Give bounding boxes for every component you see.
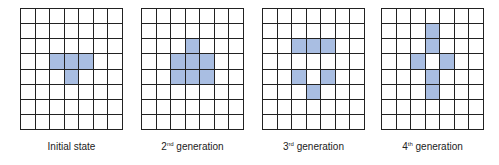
grid-cell [186,9,201,24]
grid-cell [263,70,278,85]
grid-cell-filled [307,39,322,54]
grid-cell [278,100,293,115]
grid-cell [307,9,322,24]
grid-cell [469,9,484,24]
grid-cell [469,85,484,100]
grid-cell [307,54,322,69]
grid-cell [229,54,244,69]
grid-2nd-generation [141,8,244,130]
grid-cell [411,85,426,100]
grid-cell [142,39,157,54]
grid-cell-filled [171,54,186,69]
grid-cell [440,115,455,130]
grid-cell [157,9,172,24]
grid-cell [215,9,230,24]
grid-cell [321,85,336,100]
grid-cell [278,39,293,54]
grid-cell [336,115,351,130]
grid-cell [382,54,397,69]
grid-cell [382,115,397,130]
grid-cell [171,115,186,130]
grid-cell [426,9,441,24]
grid-cell [263,54,278,69]
grid-cell [229,9,244,24]
grid-cell [382,24,397,39]
label-suffix: generation [174,141,224,152]
grid-cell [382,85,397,100]
grid-cell [200,9,215,24]
label-2nd-generation: 2nd generation [141,141,244,152]
grid-cell [215,70,230,85]
grid-cell-filled [440,54,455,69]
grid-cell [336,9,351,24]
grid-cell [278,9,293,24]
grid-3rd-generation [262,8,365,130]
grid-cell [215,100,230,115]
grid-cell [263,24,278,39]
grid-cell [263,39,278,54]
grid-cell [229,70,244,85]
grid-cell [455,100,470,115]
grid-cell [157,85,172,100]
grid-cell [397,24,412,39]
grid-cell [382,39,397,54]
grid-cell [171,39,186,54]
grid-cell [469,54,484,69]
grid-cell [455,39,470,54]
grid-cell-filled [200,70,215,85]
grid-cell [215,39,230,54]
grid-cell [278,70,293,85]
grid-cell-filled [292,70,307,85]
grid-cell [307,24,322,39]
grid-cell [307,100,322,115]
grid-cell [336,85,351,100]
grid-cell [397,100,412,115]
grid-cell-filled [426,39,441,54]
grid-cell [426,54,441,69]
grid-cell [469,39,484,54]
grid-cell [186,24,201,39]
grid-cell [142,115,157,130]
grid-cell [292,9,307,24]
grid-cell [397,39,412,54]
grid-cell [229,115,244,130]
grid-cell [200,39,215,54]
grid-cell [215,85,230,100]
grid-cell [171,9,186,24]
grid-cell [440,70,455,85]
grid-cell [336,100,351,115]
grid-cell [157,24,172,39]
grid-cell [469,115,484,130]
grid-cell [469,100,484,115]
grid-cell [278,115,293,130]
grid-cell [157,70,172,85]
grid-cell [469,70,484,85]
grid-cell [321,54,336,69]
grid-cell [215,115,230,130]
label-suffix: generation [294,141,344,152]
grid-cell [186,85,201,100]
grid-cell [215,54,230,69]
grid-cell-filled [171,70,186,85]
grid-cell [278,54,293,69]
grid-cell-filled [307,85,322,100]
grid-cell [440,9,455,24]
grid-cell [411,115,426,130]
grid-cell [411,24,426,39]
grid-cell [186,115,201,130]
grid-cell-filled [186,70,201,85]
grid-cell [229,85,244,100]
grid-cell [440,24,455,39]
grid-cell [307,115,322,130]
grid-cell [157,100,172,115]
grid-cell [157,115,172,130]
grid-cell [397,70,412,85]
grid-cell [292,24,307,39]
grid-cell [263,85,278,100]
grid-cell [142,70,157,85]
label-3rd-generation: 3rd generation [262,141,365,152]
grid-cell [397,9,412,24]
grid-cell [157,54,172,69]
grid-cell [411,70,426,85]
grid-cell [229,39,244,54]
